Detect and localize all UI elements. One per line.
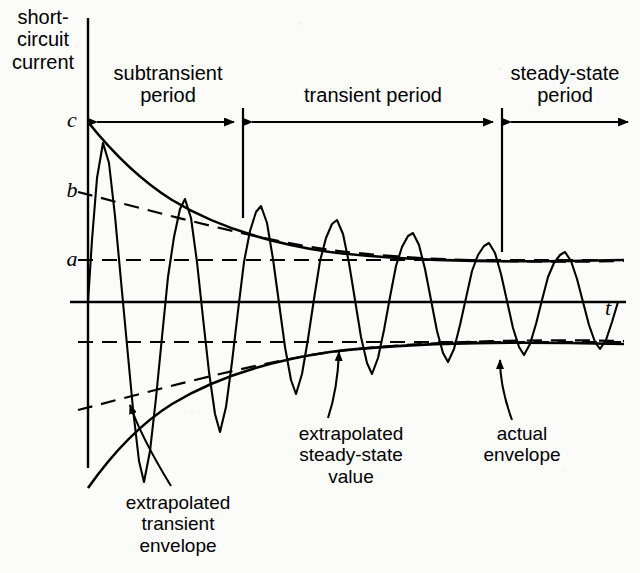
y-axis-title-line-1: short-	[2, 6, 84, 28]
leader-extrapolated-steady-state-value	[328, 352, 339, 418]
annotation-ete-line-2: transient	[78, 513, 278, 534]
axis-mark-c: c	[62, 108, 82, 133]
x-axis-label-t: t	[598, 296, 618, 321]
annotation-actual-envelope: actual envelope	[452, 423, 592, 466]
period-label-subtransient: subtransient period	[96, 62, 240, 107]
period-label-steady-state-line-2: period	[490, 84, 640, 106]
axis-mark-b: b	[62, 178, 82, 203]
annotation-ete-line-3: envelope	[78, 535, 278, 556]
period-label-subtransient-line-1: subtransient	[96, 62, 240, 84]
period-label-steady-state: steady-state period	[490, 62, 640, 107]
annotation-ete-line-1: extrapolated	[78, 492, 278, 513]
y-axis-title-line-3: current	[2, 51, 84, 73]
period-dividers	[243, 108, 502, 252]
period-label-subtransient-line-2: period	[96, 84, 240, 106]
annotation-ae-line-2: envelope	[452, 444, 592, 465]
leader-actual-envelope	[500, 360, 512, 420]
y-axis-title: short- circuit current	[2, 6, 84, 73]
actual-envelope-upper	[88, 122, 624, 261]
figure-canvas: short- circuit current c b a t subtransi…	[0, 0, 640, 573]
annotation-essv-line-1: extrapolated	[262, 423, 440, 444]
transient-envelope-upper-dashed	[78, 192, 624, 262]
annotation-essv-line-2: steady-state	[262, 444, 440, 465]
annotation-ae-line-1: actual	[452, 423, 592, 444]
annotation-extrapolated-steady-state-value: extrapolated steady-state value	[262, 423, 440, 487]
period-label-transient: transient period	[268, 84, 478, 106]
period-label-steady-state-line-1: steady-state	[490, 62, 640, 84]
axis-mark-a: a	[62, 247, 82, 272]
period-label-transient-line-1: transient period	[268, 84, 478, 106]
y-axis-title-line-2: circuit	[2, 28, 84, 50]
annotation-essv-line-3: value	[262, 466, 440, 487]
annotation-extrapolated-transient-envelope: extrapolated transient envelope	[78, 492, 278, 556]
